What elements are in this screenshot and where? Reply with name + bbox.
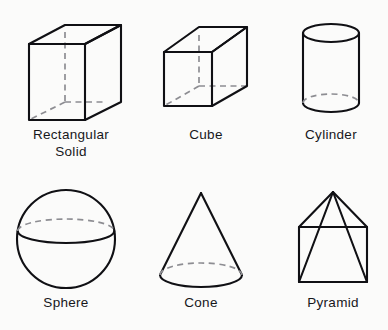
hidden-base-edge-left [29, 102, 65, 120]
apex-edge-front-right [333, 192, 367, 282]
cube-icon [150, 14, 262, 124]
apex-edge-back-left [299, 192, 333, 227]
figure-cube: Cube [150, 14, 262, 144]
figure-label: Cone [184, 295, 217, 312]
figure-label: Cube [189, 127, 222, 144]
front-face [29, 44, 85, 120]
right-slant [201, 193, 242, 275]
figure-pyramid: Pyramid [285, 186, 381, 312]
cylinder-icon [281, 14, 381, 124]
equator-front-arc [18, 231, 115, 243]
geometric-solids-figure: Rectangular Solid Cube [0, 0, 388, 330]
apex-edge-back-right [333, 192, 367, 227]
top-face [164, 27, 247, 52]
left-slant [160, 193, 201, 275]
figure-sphere: Sphere [10, 186, 122, 312]
hidden-base-back-arc [160, 263, 242, 275]
figure-label: Sphere [43, 295, 88, 312]
hidden-base-edge-left [164, 86, 199, 106]
bottom-front-arc [303, 103, 359, 112]
cube-drawing [150, 14, 262, 124]
pyramid-drawing [285, 186, 381, 292]
sphere-drawing [10, 186, 122, 292]
pyramid-icon [285, 186, 381, 292]
figure-cone: Cone [146, 186, 256, 312]
hidden-bottom-back-arc [303, 94, 359, 103]
figure-cylinder: Cylinder [281, 14, 381, 144]
right-face [212, 27, 247, 106]
cone-icon [146, 186, 256, 292]
top-face [29, 25, 121, 44]
sphere-icon [10, 186, 122, 292]
figure-label: Cylinder [305, 127, 357, 144]
figure-rectangular-solid: Rectangular Solid [13, 14, 129, 160]
cone-drawing [146, 186, 256, 292]
rectangular-solid-drawing [13, 14, 129, 124]
figure-label: Rectangular Solid [33, 127, 109, 160]
figure-label: Pyramid [307, 295, 359, 312]
right-face [85, 25, 121, 120]
base-front-arc [160, 275, 242, 287]
hidden-equator-back-arc [18, 219, 115, 231]
apex-edge-front-left [299, 192, 333, 282]
cylinder-drawing [281, 14, 381, 124]
top-ellipse [303, 24, 359, 42]
front-face [164, 52, 212, 106]
rectangular-solid-icon [13, 14, 129, 124]
